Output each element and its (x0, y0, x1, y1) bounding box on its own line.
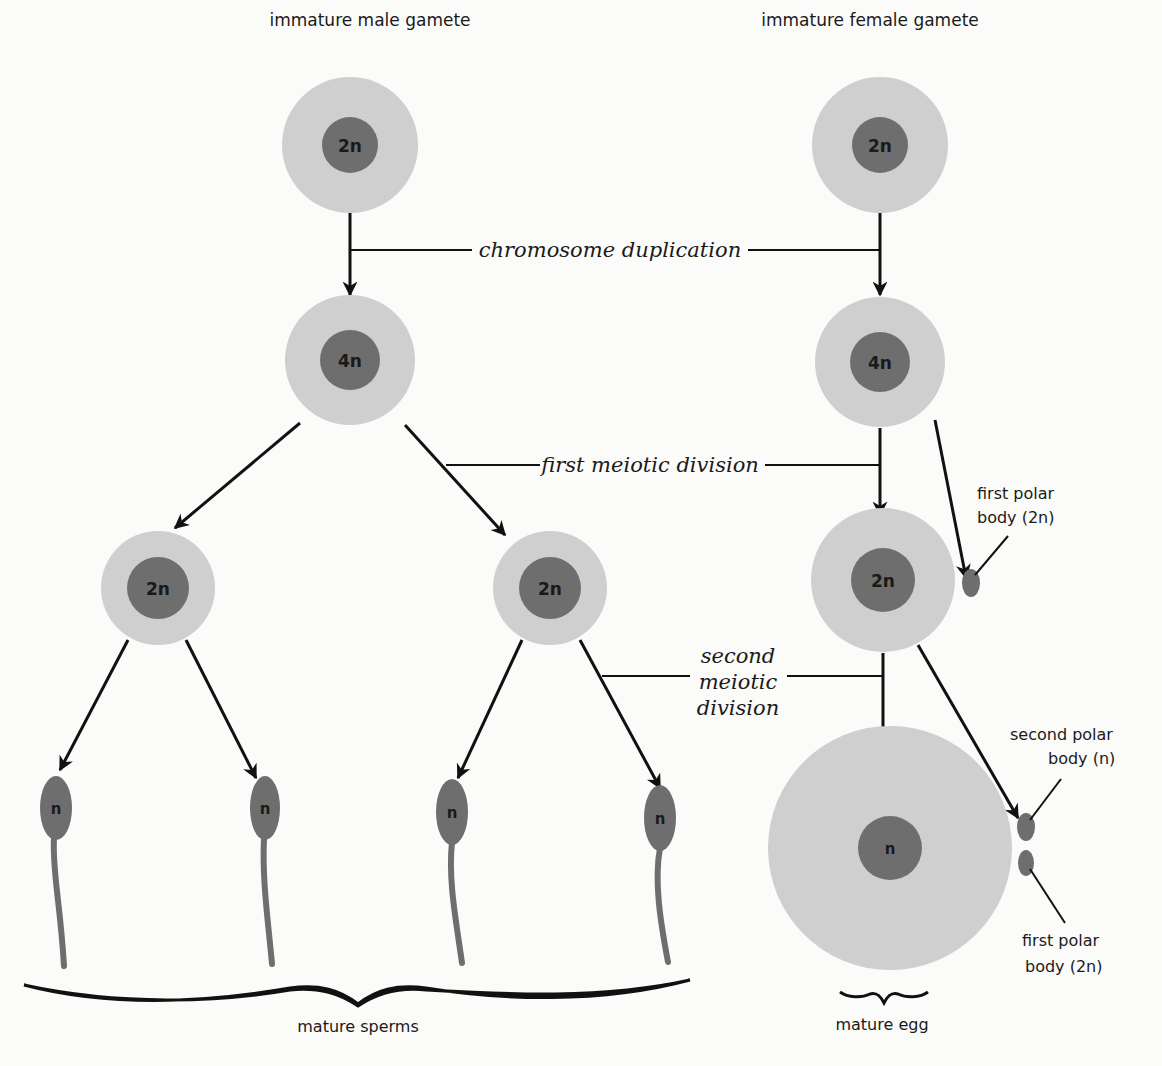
stage-label-first-division: first meiotic division (539, 453, 759, 477)
label-second-polar-body-line1: second polar (1010, 725, 1113, 744)
stage-label-second-division-line1: second (701, 644, 776, 668)
sperm-1: n (40, 776, 72, 966)
label-mature-sperms: mature sperms (297, 1017, 419, 1036)
sperm-3: n (436, 779, 468, 963)
label-first-polar-body-bottom-line2: body (2n) (1025, 957, 1102, 976)
ploidy-label: n (885, 840, 896, 858)
male-secondary-cell-right: 2n (493, 531, 607, 645)
ploidy-label: 4n (338, 351, 362, 371)
ploidy-label: n (447, 804, 458, 822)
ploidy-label: n (655, 810, 666, 828)
title-female-gamete: immature female gamete (761, 10, 979, 30)
mature-egg: n (768, 726, 1012, 970)
male-secondary-cell-left: 2n (101, 531, 215, 645)
arrow-sperm-1 (60, 640, 128, 770)
arrow-sperm-3 (458, 640, 522, 778)
label-first-polar-body-line2: body (2n) (977, 508, 1054, 527)
ploidy-label: n (51, 800, 62, 818)
ploidy-label: 4n (868, 353, 892, 373)
sperm-4: n (644, 785, 676, 962)
stage-label-duplication: chromosome duplication (479, 238, 741, 262)
label-second-polar-body-line2: body (n) (1048, 749, 1115, 768)
female-secondary-cell: 2n (811, 508, 955, 652)
ploidy-label: n (260, 800, 271, 818)
label-mature-egg: mature egg (835, 1015, 928, 1034)
sperm-2: n (250, 776, 280, 964)
ploidy-label: 2n (338, 136, 362, 156)
label-first-polar-body-bottom-line1: first polar (1022, 931, 1100, 950)
arrow-sperm-2 (186, 640, 256, 778)
ploidy-label: 2n (871, 571, 895, 591)
pointer-line (975, 536, 1008, 575)
ploidy-label: 2n (868, 136, 892, 156)
female-immature-cell: 2n (812, 77, 948, 213)
stage-label-second-division-line3: division (697, 696, 779, 720)
arrow-sperm-4 (580, 640, 660, 788)
brace-mature-sperms (24, 980, 690, 1006)
male-immature-cell: 2n (282, 77, 418, 213)
arrow-male-first-division-right (405, 425, 505, 535)
pointer-line (1030, 779, 1061, 820)
pointer-line (1030, 869, 1065, 923)
label-first-polar-body-line1: first polar (977, 484, 1055, 503)
stage-label-second-division-line2: meiotic (699, 670, 778, 694)
arrow-male-first-division-left (175, 423, 300, 528)
male-duplicated-cell: 4n (285, 295, 415, 425)
ploidy-label: 2n (146, 579, 170, 599)
female-duplicated-cell: 4n (815, 297, 945, 427)
brace-mature-egg (840, 992, 928, 1003)
title-male-gamete: immature male gamete (269, 10, 470, 30)
ploidy-label: 2n (538, 579, 562, 599)
gametogenesis-diagram: immature male gamete immature female gam… (0, 0, 1162, 1066)
